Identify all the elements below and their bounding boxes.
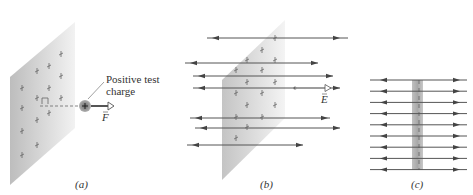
annotation-leader-line <box>88 82 104 99</box>
arrowhead-right <box>453 123 460 127</box>
arrowhead-right <box>333 126 340 130</box>
arrowhead-left <box>198 86 205 90</box>
arrowhead-left <box>380 100 387 104</box>
arrowhead-left <box>212 36 219 40</box>
arrowhead-left <box>380 78 387 82</box>
arrowhead-right <box>453 145 460 149</box>
arrowhead-right <box>326 74 333 78</box>
arrowhead-right <box>453 167 460 171</box>
arrowhead-right <box>453 89 460 93</box>
arrowhead-left <box>190 61 197 65</box>
arrowhead-left <box>192 143 199 147</box>
arrowhead-right <box>453 78 460 82</box>
force-label: F <box>102 111 109 123</box>
arrowhead-right <box>321 116 328 120</box>
arrowhead-right <box>453 100 460 104</box>
arrowhead-right <box>333 36 340 40</box>
arrowhead-right <box>296 143 303 147</box>
arrowhead-left <box>380 167 387 171</box>
panel-a <box>10 22 114 185</box>
panel-c <box>370 78 467 172</box>
arrowhead-right <box>311 61 318 65</box>
arrowhead-right <box>333 86 340 90</box>
diagram-canvas <box>0 0 473 195</box>
arrowhead-left <box>200 126 207 130</box>
positive-test-charge-label: Positive test charge <box>106 73 159 97</box>
arrowhead-left <box>198 74 205 78</box>
field-label: E <box>321 93 328 105</box>
arrowhead-left <box>380 145 387 149</box>
arrowhead-left <box>195 116 202 120</box>
charged-sheet-b <box>222 20 285 180</box>
charged-sheet-a <box>10 22 75 185</box>
arrowhead-left <box>380 134 387 138</box>
caption-b: (b) <box>260 178 273 190</box>
force-arrow-head <box>108 102 114 110</box>
arrowhead-left <box>380 156 387 160</box>
arrowhead-left <box>380 123 387 127</box>
arrowhead-left <box>380 89 387 93</box>
caption-c: (c) <box>411 178 423 190</box>
caption-a: (a) <box>75 178 88 190</box>
arrowhead-right <box>453 134 460 138</box>
e-field-arrowhead <box>325 85 331 92</box>
arrowhead-right <box>453 156 460 160</box>
arrowhead-right <box>453 111 460 115</box>
arrowhead-left <box>380 111 387 115</box>
